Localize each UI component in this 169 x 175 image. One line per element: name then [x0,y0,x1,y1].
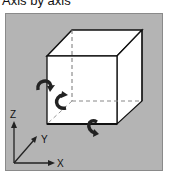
z-axis-label: Z [10,109,16,120]
cube-front-face [47,56,117,124]
cube-diagram: Z Y X [0,0,169,175]
x-axis-label: X [57,158,64,169]
y-axis-label: Y [41,134,48,145]
